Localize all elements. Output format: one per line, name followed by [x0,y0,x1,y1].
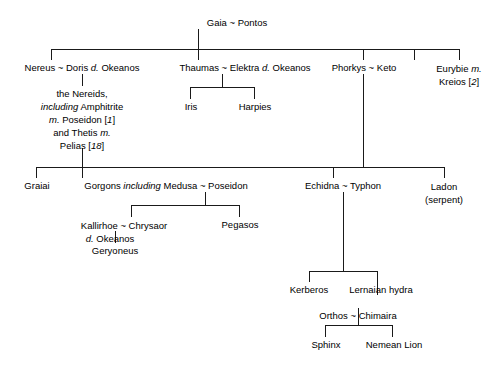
label-orthos-chimaira: Orthos ~ Chimaira [319,310,396,321]
label-nereids-close1: ] [112,114,115,125]
label-kallirhoe-qualifier: d. [86,233,94,244]
nereids-line-5: Pelias [18] [14,139,150,152]
node-eurybie-kreios: Eurybie m. Kreios [2] [420,62,498,88]
node-kallirhoe-chrysaor: Kallirhoe ~ Chrysaor d. Okeanos [64,219,184,245]
label-nereus-doris-qualifier: d. [91,62,99,73]
node-graiai: Graiai [24,180,49,193]
label-thaumas-okeanos: Okeanos [270,62,311,73]
node-ladon: Ladon (serpent) [407,180,481,206]
node-phorkys-keto: Phorkys ~ Keto [332,62,397,75]
node-iris: Iris [185,101,198,114]
nereids-line-4: and Thetis m. [14,126,150,139]
label-geryoneus: Geryoneus [92,245,138,256]
label-eurybie: Eurybie [436,63,471,74]
label-nereids-close2: ] [102,140,105,151]
label-nereus-doris-okeanos: Okeanos [99,62,140,73]
nereids-line-1: the Nereids, [14,87,150,100]
label-sphinx: Sphinx [311,339,340,350]
genealogy-diagram: Gaia ~ Pontos Nereus ~ Doris d. Okeanos … [0,0,504,365]
label-nereids-pelias: Pelias [ [60,140,91,151]
label-nereids-ref2: 18 [91,140,102,151]
label-iris: Iris [185,101,198,112]
label-nereids-m2: m. [100,127,111,138]
kallirhoe-line-2: d. Okeanos [36,232,184,245]
ladon-note: (serpent) [407,193,481,206]
node-geryoneus: Geryoneus [92,245,138,258]
label-pegasos: Pegasos [222,219,259,230]
label-nereids-including: including [41,101,79,112]
label-nereids-poseidon: Poseidon [ [60,114,108,125]
label-thaumas-qualifier: d. [262,62,270,73]
node-harpies: Harpies [239,101,272,114]
label-gaia-pontos: Gaia ~ Pontos [207,17,267,28]
nereids-line-3: m. Poseidon [1] [14,113,150,126]
nereids-line-2: including Amphitrite [14,100,150,113]
label-nereids-m1: m. [49,114,60,125]
label-ladon-name: Ladon [431,181,457,192]
node-pegasos: Pegasos [222,219,259,232]
eurybie-line-2: Kreios [2] [420,75,498,88]
node-thaumas-elektra: Thaumas ~ Elektra d. Okeanos [179,62,310,75]
label-nereus-doris: Nereus ~ Doris [25,62,89,73]
label-eurybie-m: m. [471,63,482,74]
label-gorgons-prefix: Gorgons [84,180,123,191]
node-gorgons-medusa-poseidon: Gorgons including Medusa ~ Poseidon [84,180,247,193]
kallirhoe-line-1: Kallirhoe ~ Chrysaor [64,219,184,232]
node-gaia-pontos: Gaia ~ Pontos [207,17,267,30]
label-nereids-amphitrite: Amphitrite [78,101,123,112]
node-lernaian-hydra: Lernaian hydra [349,284,412,297]
label-lernaian-hydra: Lernaian hydra [349,284,412,295]
node-sphinx: Sphinx [311,339,340,352]
node-kerberos: Kerberos [290,284,329,297]
label-nereids-line1: the Nereids, [56,88,107,99]
label-eurybie-close: ] [476,76,479,87]
label-nemean-lion: Nemean Lion [366,339,423,350]
node-nereids-note: the Nereids, including Amphitrite m. Pos… [14,87,150,152]
node-echidna-typhon: Echidna ~ Typhon [305,180,381,193]
node-nemean-lion: Nemean Lion [366,339,423,352]
label-ladon-note: (serpent) [425,194,463,205]
label-kallirhoe-okeanos: Okeanos [94,233,135,244]
label-thaumas-elektra: Thaumas ~ Elektra [179,62,262,73]
label-phorkys-keto: Phorkys ~ Keto [332,62,397,73]
node-orthos-chimaira: Orthos ~ Chimaira [319,310,396,323]
node-nereus-doris: Nereus ~ Doris d. Okeanos [25,62,140,75]
label-graiai: Graiai [24,180,49,191]
label-kallirhoe-chrysaor: Kallirhoe ~ Chrysaor [81,220,167,231]
label-kerberos: Kerberos [290,284,329,295]
label-echidna-typhon: Echidna ~ Typhon [305,180,381,191]
label-harpies: Harpies [239,101,272,112]
ladon-name: Ladon [407,180,481,193]
eurybie-line-1: Eurybie m. [420,62,498,75]
label-gorgons-including: including [123,180,161,191]
label-nereids-and-thetis: and Thetis [53,127,100,138]
label-eurybie-kreios: Kreios [ [439,76,471,87]
label-gorgons-suffix: Medusa ~ Poseidon [161,180,248,191]
